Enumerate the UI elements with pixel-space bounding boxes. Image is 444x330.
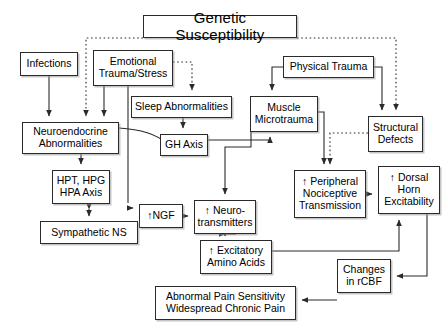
node-genetic-susceptibility[interactable]: Genetic Susceptibility xyxy=(143,15,297,38)
node-physical-trauma[interactable]: Physical Trauma xyxy=(283,56,374,78)
edge-physical-to-muscle xyxy=(272,67,283,90)
node-label: Genetic Susceptibility xyxy=(152,10,288,44)
node-emotional-trauma-stress[interactable]: Emotional Trauma/Stress xyxy=(93,50,173,86)
node-structural-defects[interactable]: Structural Defects xyxy=(368,116,423,152)
edge-physical-to-structural xyxy=(374,67,382,110)
node-muscle-microtrauma[interactable]: Muscle Microtrauma xyxy=(250,96,318,132)
node-excitatory-amino-acids[interactable]: ↑ Excitatory Amino Acids xyxy=(200,240,272,274)
node-label: ↑ Dorsal Horn Excitability xyxy=(384,172,434,207)
node-label: HPT, HPG HPA Axis xyxy=(57,175,105,199)
node-infections[interactable]: Infections xyxy=(20,52,78,76)
node-neurotransmitters[interactable]: ↑ Neuro- transmitters xyxy=(194,200,256,234)
node-abnormal-pain-outcome[interactable]: Abnormal Pain Sensitivity Widespread Chr… xyxy=(155,286,296,320)
node-gh-axis[interactable]: GH Axis xyxy=(160,134,208,156)
node-label: Abnormal Pain Sensitivity Widespread Chr… xyxy=(166,291,285,315)
node-label: ↑ Neuro- transmitters xyxy=(198,205,253,229)
node-changes-in-rcbf[interactable]: Changes in rCBF xyxy=(337,259,391,293)
node-label: Sympathetic NS xyxy=(51,227,126,239)
edge-muscle-to-neurotransmitters xyxy=(225,132,251,194)
edge-dorsal-to-rcbf xyxy=(397,214,427,276)
node-sleep-abnormalities[interactable]: Sleep Abnormalities xyxy=(131,96,232,118)
node-label: ↑NGF xyxy=(147,210,174,222)
node-label: ↑ Excitatory Amino Acids xyxy=(207,245,265,269)
node-dorsal-horn-excitability[interactable]: ↑ Dorsal Horn Excitability xyxy=(378,166,440,214)
node-hpt-hpg-hpa-axis[interactable]: HPT, HPG HPA Axis xyxy=(52,170,110,204)
edge-muscle-to-peripheral xyxy=(318,112,324,164)
node-label: Neuroendocrine Abnormalities xyxy=(33,126,108,150)
edge-neuroendocrine-to-ghaxis-curve xyxy=(119,128,166,143)
node-label: Sleep Abnormalities xyxy=(135,101,228,113)
node-label: GH Axis xyxy=(165,139,203,151)
node-label: Emotional Trauma/Stress xyxy=(99,56,167,80)
edge-excitatory-to-dorsal xyxy=(272,220,399,251)
edge-emotional-to-sleep xyxy=(173,62,192,90)
node-ngf[interactable]: ↑NGF xyxy=(139,204,183,228)
node-label: Structural Defects xyxy=(373,122,418,146)
diagram-canvas: Genetic Susceptibility Infections Emotio… xyxy=(0,0,444,330)
node-label: Changes in rCBF xyxy=(343,264,385,288)
edge-ghaxis-to-muscle xyxy=(208,137,270,140)
edge-structural-to-peripheral xyxy=(330,133,368,164)
node-label: ↑ Peripheral Nociceptive Transmission xyxy=(299,176,361,211)
node-label: Physical Trauma xyxy=(290,61,368,73)
node-sympathetic-ns[interactable]: Sympathetic NS xyxy=(40,221,138,244)
node-label: Muscle Microtrauma xyxy=(255,102,313,126)
node-neuroendocrine-abnormalities[interactable]: Neuroendocrine Abnormalities xyxy=(22,122,119,154)
node-label: Infections xyxy=(27,58,72,70)
node-peripheral-nociceptive-transmission[interactable]: ↑ Peripheral Nociceptive Transmission xyxy=(294,170,366,218)
